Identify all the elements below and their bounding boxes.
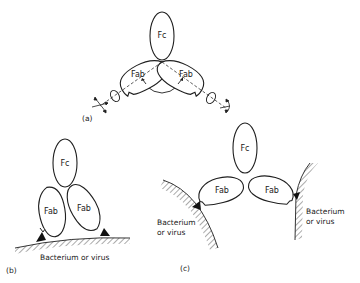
rotation-ellipse-right [205,91,218,105]
fab-right-label: Fab [179,70,193,79]
fc-label: Fc [61,159,70,168]
motion-arrows-right [220,99,230,113]
surface-label: Bacterium or virus [40,253,109,262]
rotation-ellipse-left [109,89,122,103]
panel-a: Fc Fab Fab [82,12,230,123]
fab-left-label: Fab [44,207,58,216]
fab-left-label: Fab [215,186,229,195]
fab-right-label: Fab [77,204,91,213]
surface-right-label-line2: or virus [306,217,334,226]
motion-arrows-left [92,97,108,113]
panel-a-label: (a) [82,114,93,123]
surface-left-label-line2: or virus [157,228,185,237]
panel-b-label: (b) [6,266,17,275]
surface-right-label-line1: Bacterium [306,207,345,216]
fab-right-label: Fab [265,186,279,195]
fc-label: Fc [241,144,250,153]
fc-label: Fc [158,31,167,40]
surface-left-label-line1: Bacterium [157,218,196,227]
panel-c-label: (c) [180,264,190,273]
antigen-right [100,228,110,236]
panel-c: Fc Fab Fab Bacterium or virus Bacterium … [157,123,345,273]
bacterium-surface [15,238,130,254]
panel-b: Fc Fab Fab Bacterium or virus (b) [6,139,130,275]
antibody-diagram: Fc Fab Fab [0,0,360,283]
fab-left-label: Fab [131,70,145,79]
bacterium-surface-right [295,163,318,240]
antigen-left [36,232,46,242]
